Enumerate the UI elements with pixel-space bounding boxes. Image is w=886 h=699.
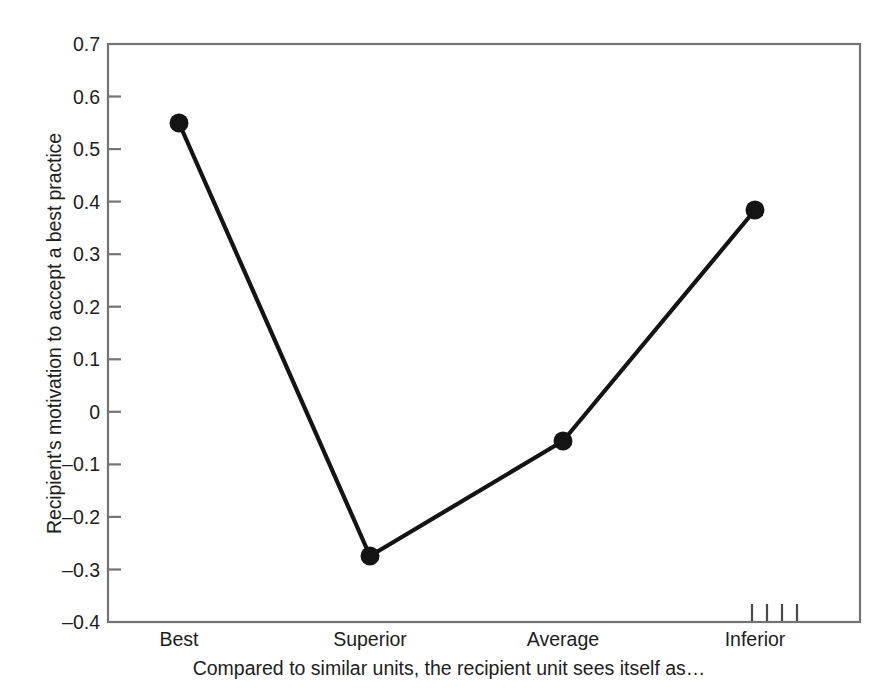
y-tick-label: 0.2 (32, 295, 100, 318)
y-tick-label: 0.4 (32, 190, 100, 213)
y-axis-tick-labels: 0.7 0.6 0.5 0.4 0.3 0.2 0.1 0 –0.1 –0.2 … (30, 0, 100, 699)
y-tick-label: –0.1 (32, 453, 100, 476)
data-point-superior (361, 547, 380, 566)
data-point-best (170, 114, 189, 133)
y-tick-label: 0.3 (32, 243, 100, 266)
y-tick-label: –0.2 (32, 505, 100, 528)
x-tick-label-inferior: Inferior (725, 628, 786, 651)
data-point-average (554, 432, 573, 451)
x-axis-tick-labels: Best Superior Average Inferior (0, 628, 886, 656)
x-axis-title: Compared to similar units, the recipient… (0, 657, 886, 680)
y-tick-label: 0.1 (32, 348, 100, 371)
y-tick-label: –0.3 (32, 558, 100, 581)
y-tick-label: 0.5 (32, 138, 100, 161)
plot-area (0, 0, 886, 699)
x-tick-label-best: Best (159, 628, 198, 651)
y-tick-label: 0.7 (32, 33, 100, 56)
y-tick-label: 0.6 (32, 85, 100, 108)
plot-frame (108, 44, 860, 622)
line-chart-figure: Recipient's motivation to accept a best … (0, 0, 886, 699)
x-tick-label-superior: Superior (333, 628, 407, 651)
y-tick-label: 0 (32, 400, 100, 423)
x-tick-label-average: Average (527, 628, 599, 651)
data-point-inferior (746, 201, 765, 220)
